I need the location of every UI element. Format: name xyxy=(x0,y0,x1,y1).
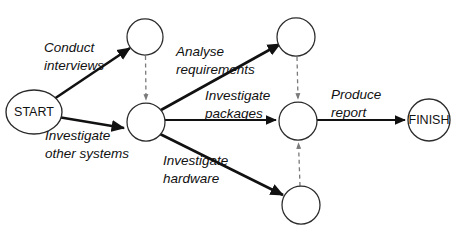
label-produce-report: Produce report xyxy=(331,87,381,120)
label-conduct-interviews-line1: Conduct xyxy=(44,40,96,55)
node-event-b[interactable] xyxy=(127,103,165,141)
label-investigate-other-systems-line2: other systems xyxy=(45,146,129,161)
activity-arrow-conduct-interviews xyxy=(54,48,130,99)
node-event-a-shape xyxy=(127,19,163,55)
node-event-e-shape xyxy=(282,186,320,224)
label-investigate-hardware: Investigate hardware xyxy=(163,153,228,186)
dummy-arrow-a-to-b xyxy=(146,56,147,100)
activity-label-group: Conduct interviews Investigate other sys… xyxy=(44,40,381,186)
label-conduct-interviews: Conduct interviews xyxy=(44,40,104,73)
label-investigate-other-systems: Investigate other systems xyxy=(45,128,129,161)
label-analyse-requirements-line2: requirements xyxy=(176,62,255,77)
network-diagram-canvas: START FINISH xyxy=(0,0,460,238)
node-event-b-shape xyxy=(127,103,165,141)
label-produce-report-line2: report xyxy=(331,105,368,120)
label-analyse-requirements-line1: Analyse xyxy=(175,44,224,59)
node-event-e[interactable] xyxy=(282,186,320,224)
label-investigate-hardware-line2: hardware xyxy=(163,171,219,186)
label-investigate-packages-line1: Investigate xyxy=(205,88,270,103)
node-event-c[interactable] xyxy=(277,18,315,56)
activity-arrow-investigate-other-systems xyxy=(58,117,124,128)
node-finish[interactable]: FINISH xyxy=(408,99,450,141)
node-event-a[interactable] xyxy=(127,19,163,55)
dummy-arrow-c-to-d xyxy=(297,57,298,99)
dummy-arrow-e-to-d xyxy=(299,143,301,186)
node-event-d-shape xyxy=(279,102,317,140)
label-investigate-other-systems-line1: Investigate xyxy=(45,128,110,143)
label-investigate-packages: Investigate packages xyxy=(204,88,270,121)
label-investigate-hardware-line1: Investigate xyxy=(163,153,228,168)
node-event-c-shape xyxy=(277,18,315,56)
diagram-svg: START FINISH xyxy=(0,0,460,238)
label-produce-report-line1: Produce xyxy=(331,87,381,102)
label-analyse-requirements: Analyse requirements xyxy=(175,44,255,77)
node-event-d[interactable] xyxy=(279,102,317,140)
label-conduct-interviews-line2: interviews xyxy=(44,58,104,73)
node-finish-label: FINISH xyxy=(409,113,450,127)
label-investigate-packages-line2: packages xyxy=(204,106,263,121)
node-start-label: START xyxy=(14,105,54,119)
